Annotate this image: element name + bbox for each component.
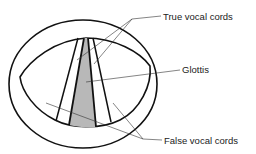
label-glottis: Glottis [182, 65, 209, 75]
larynx-diagram [0, 0, 256, 154]
label-true-vocal-cords: True vocal cords [163, 12, 233, 22]
label-false-vocal-cords: False vocal cords [164, 136, 238, 146]
